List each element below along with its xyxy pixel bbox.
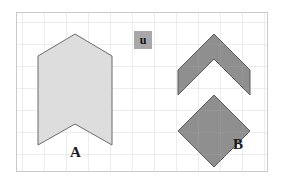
shape-grid-figure [0, 0, 285, 185]
shape-a-label: A [70, 145, 81, 160]
u-marker-label: u [140, 34, 147, 46]
shape-b-label: B [233, 137, 243, 152]
u-marker-box: u [134, 31, 152, 49]
figure-canvas: u A B [0, 0, 285, 185]
